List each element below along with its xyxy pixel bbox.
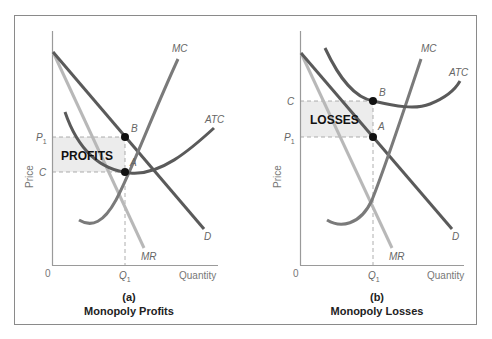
point-a	[369, 133, 377, 141]
atc-label: ATC	[448, 67, 469, 78]
x-axis-label: Quantity	[179, 270, 216, 281]
caption-a: (a) Monopoly Profits	[29, 290, 229, 318]
profits-label: PROFITS	[61, 149, 113, 163]
y-axis-label: Price	[24, 165, 35, 188]
b-label: B	[379, 87, 386, 98]
mc-label: MC	[172, 43, 188, 54]
figure: MC ATC D MR B A P1 C Q1 0 Quantity Price…	[0, 0, 492, 339]
a-label: A	[377, 121, 385, 132]
mr-label: MR	[141, 251, 157, 262]
losses-label: LOSSES	[310, 113, 359, 127]
c-tick-label: C	[39, 167, 47, 178]
panel-b-title: Monopoly Losses	[277, 304, 477, 318]
d-label: D	[452, 231, 459, 242]
panel-b-label: (b)	[277, 290, 477, 304]
a-label: A	[129, 157, 137, 168]
mc-label: MC	[421, 43, 437, 54]
c-tick-label: C	[287, 96, 295, 107]
point-a	[121, 168, 129, 176]
d-label: D	[204, 231, 211, 242]
b-label: B	[131, 123, 138, 134]
origin-label: 0	[293, 268, 299, 279]
panel-a-label: (a)	[29, 290, 229, 304]
mr-label: MR	[389, 251, 405, 262]
point-b	[369, 97, 377, 105]
y-axis-label: Price	[272, 165, 283, 188]
caption-b: (b) Monopoly Losses	[277, 290, 477, 318]
origin-label: 0	[45, 268, 51, 279]
point-b	[121, 133, 129, 141]
x-axis-label: Quantity	[427, 270, 464, 281]
panel-a-title: Monopoly Profits	[29, 304, 229, 318]
atc-label: ATC	[204, 114, 225, 125]
